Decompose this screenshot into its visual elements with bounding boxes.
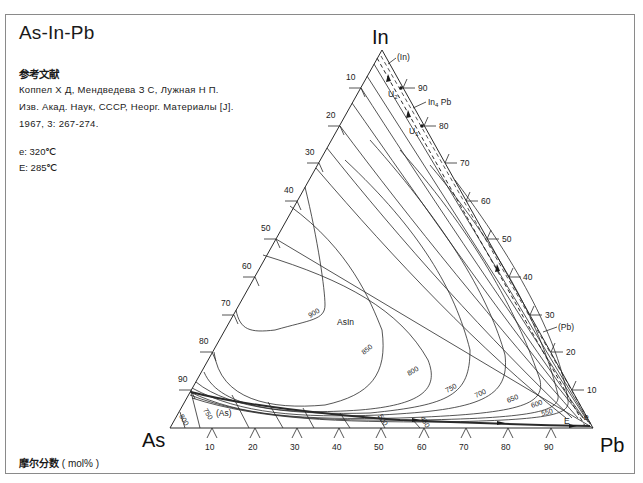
svg-text:30: 30 [290, 442, 300, 452]
u2-point-label: U2 [388, 89, 398, 100]
leader-in4pb [413, 102, 426, 108]
as-solid-solution-label: (As) [216, 408, 232, 418]
svg-text:50: 50 [261, 223, 271, 233]
svg-text:60: 60 [242, 261, 252, 271]
vertex-in-label: In [372, 26, 389, 48]
vertex-pb-label: Pb [600, 434, 624, 456]
u1-point-label: U1 [409, 126, 419, 137]
E-point-label: E [564, 416, 570, 426]
svg-text:80: 80 [501, 442, 511, 452]
svg-text:20: 20 [248, 442, 258, 452]
svg-text:10: 10 [587, 385, 597, 395]
bottom-axis-ticks [207, 428, 556, 438]
right-axis-labels: 90 80 70 60 50 40 30 20 10 [418, 83, 597, 395]
svg-text:10: 10 [346, 72, 356, 82]
svg-text:80: 80 [199, 336, 209, 346]
svg-text:40: 40 [284, 185, 294, 195]
composition-triangle [170, 50, 593, 428]
leader-in [388, 58, 396, 64]
pb-solid-solution-label: (Pb) [558, 322, 574, 332]
svg-text:20: 20 [566, 347, 576, 357]
bottom-axis-labels: 10 20 30 40 50 60 70 80 90 [205, 442, 554, 452]
svg-text:600: 600 [530, 398, 543, 409]
left-axis-ticks [179, 88, 365, 399]
svg-text:800: 800 [406, 365, 420, 377]
svg-text:750: 750 [444, 382, 458, 394]
vertex-as-label: As [142, 429, 165, 451]
svg-text:60: 60 [481, 196, 491, 206]
svg-text:60: 60 [417, 442, 427, 452]
asin-pb-tie-line [276, 239, 593, 428]
in4pb-label: In4 Pb [428, 97, 451, 108]
svg-text:70: 70 [460, 158, 470, 168]
svg-text:20: 20 [326, 110, 336, 120]
svg-text:30: 30 [545, 310, 555, 320]
svg-text:70: 70 [459, 442, 469, 452]
ternary-phase-diagram: In As Pb 10 20 30 40 50 60 70 80 90 90 8… [0, 0, 643, 483]
svg-text:800: 800 [178, 413, 190, 427]
svg-text:90: 90 [418, 83, 428, 93]
left-axis-labels: 10 20 30 40 50 60 70 80 90 [178, 72, 356, 384]
svg-text:50: 50 [374, 442, 384, 452]
svg-text:80: 80 [439, 121, 449, 131]
svg-text:850: 850 [360, 343, 374, 356]
svg-text:50: 50 [502, 234, 512, 244]
svg-text:10: 10 [205, 442, 215, 452]
in-rich-isotherms [316, 64, 590, 424]
svg-text:550: 550 [540, 407, 553, 417]
asin-compound-label: AsIn [337, 317, 354, 327]
svg-text:90: 90 [178, 374, 188, 384]
isotherm-labels: 900 850 800 750 700 650 600 550 500 450 … [178, 307, 554, 429]
in-solid-solution-label: (In) [397, 52, 410, 62]
svg-text:750: 750 [202, 407, 214, 421]
svg-text:650: 650 [506, 393, 520, 404]
svg-text:70: 70 [221, 298, 231, 308]
svg-text:30: 30 [305, 147, 315, 157]
svg-text:90: 90 [544, 442, 554, 452]
svg-text:40: 40 [523, 272, 533, 282]
e-point-label: e [584, 412, 589, 422]
svg-text:40: 40 [332, 442, 342, 452]
